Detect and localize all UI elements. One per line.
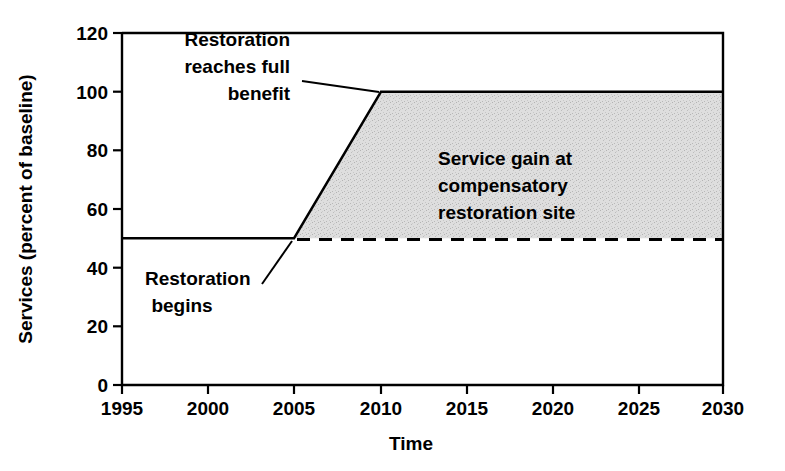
chart-svg: 120 100 80 60 40 20 0 1995 2000 2005 201… bbox=[0, 0, 785, 471]
y-tick-label: 100 bbox=[76, 82, 108, 103]
annotation-line: reaches full bbox=[184, 56, 290, 77]
x-tick-label: 2010 bbox=[360, 398, 402, 419]
annotation-line: Service gain at bbox=[438, 148, 573, 169]
x-tick-label: 2000 bbox=[187, 398, 229, 419]
annotation-line: begins bbox=[151, 295, 212, 316]
annotation-line: benefit bbox=[228, 83, 291, 104]
annotation-line: compensatory bbox=[438, 175, 568, 196]
y-tick-label: 0 bbox=[97, 375, 108, 396]
x-axis-title: Time bbox=[389, 433, 433, 454]
annotation-line: Restoration bbox=[145, 268, 251, 289]
y-tick-label: 20 bbox=[87, 316, 108, 337]
x-tick-label: 2015 bbox=[446, 398, 489, 419]
x-tick-label: 1995 bbox=[101, 398, 144, 419]
annotation-line: Restoration bbox=[184, 29, 290, 50]
x-tick-label: 2030 bbox=[702, 398, 744, 419]
y-tick-label: 40 bbox=[87, 258, 108, 279]
annotation-service-gain-region: Service gain at compensatory restoration… bbox=[438, 148, 575, 223]
x-tick-label: 2020 bbox=[532, 398, 574, 419]
y-tick-label: 120 bbox=[76, 23, 108, 44]
y-axis-title: Services (percent of baseline) bbox=[15, 74, 36, 343]
x-tick-label: 2005 bbox=[273, 398, 316, 419]
y-tick-label: 60 bbox=[87, 199, 108, 220]
chart-figure: 120 100 80 60 40 20 0 1995 2000 2005 201… bbox=[0, 0, 785, 471]
annotation-line: restoration site bbox=[438, 202, 575, 223]
x-tick-label: 2025 bbox=[618, 398, 661, 419]
y-tick-label: 80 bbox=[87, 140, 108, 161]
